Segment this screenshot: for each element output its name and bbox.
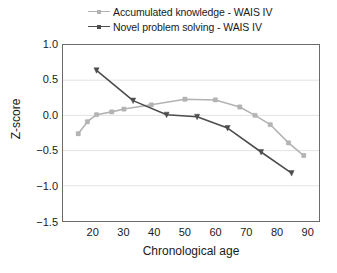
data-series-layer — [63, 45, 319, 221]
y-tick-label: 0.0 — [24, 110, 58, 121]
x-tick-label: 40 — [139, 227, 169, 238]
x-tick-label: 30 — [108, 227, 138, 238]
legend-point-swatch — [97, 25, 101, 29]
legend-point-swatch — [97, 10, 101, 14]
x-tick-label: 20 — [78, 227, 108, 238]
plot-area — [62, 44, 320, 222]
legend-item-accumulated-knowledge: Accumulated knowledge - WAIS IV — [88, 4, 328, 19]
legend-marker-accumulated-knowledge — [88, 6, 110, 17]
y-tick-label: 1.0 — [24, 39, 58, 50]
y-tick-label: −1.5 — [24, 217, 58, 228]
legend-label-accumulated-knowledge: Accumulated knowledge - WAIS IV — [113, 6, 272, 18]
x-tick-label: 50 — [170, 227, 200, 238]
y-tick-label: −0.5 — [24, 145, 58, 156]
y-tick-label: 0.5 — [24, 74, 58, 85]
y-axis-title: Z-score — [9, 79, 23, 159]
y-tick-label: −1.0 — [24, 181, 58, 192]
chart-figure: Accumulated knowledge - WAIS IV Novel pr… — [0, 0, 337, 273]
legend-marker-novel-problem-solving — [88, 21, 110, 32]
legend-item-novel-problem-solving: Novel problem solving - WAIS IV — [88, 19, 328, 34]
legend-label-novel-problem-solving: Novel problem solving - WAIS IV — [113, 21, 262, 33]
x-tick-label: 70 — [231, 227, 261, 238]
x-axis-title: Chronological age — [62, 244, 320, 258]
x-tick-label: 60 — [201, 227, 231, 238]
x-axis-tick-labels: 2030405060708090 — [0, 227, 337, 241]
chart-legend: Accumulated knowledge - WAIS IV Novel pr… — [88, 4, 328, 34]
x-tick-label: 80 — [262, 227, 292, 238]
x-tick-label: 90 — [293, 227, 323, 238]
